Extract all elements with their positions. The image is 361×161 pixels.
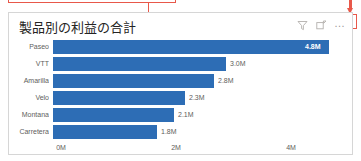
bar-value-label: 2.8M [218, 73, 234, 89]
filter-icon[interactable] [294, 18, 310, 33]
category-label: Carretera [9, 124, 49, 140]
bar[interactable] [53, 74, 214, 88]
bar-row[interactable]: Amarilla2.8M [9, 73, 352, 89]
bar-track: 2.8M [53, 73, 352, 89]
bar-track: 2.3M [53, 90, 352, 106]
bar-row[interactable]: Velo2.3M [9, 90, 352, 106]
bar-value-label: 3.0M [230, 56, 246, 72]
bar-track: 1.8M [53, 124, 352, 140]
category-label: Amarilla [9, 73, 49, 89]
bar[interactable] [53, 57, 226, 71]
x-axis-tick-label: 4M [286, 144, 296, 151]
bar-row[interactable]: Montana2.1M [9, 107, 352, 123]
visual-header: 製品別の利益の合計 … [9, 13, 352, 39]
category-label: VTT [9, 56, 49, 72]
x-axis-tick-label: 2M [171, 144, 181, 151]
bar[interactable] [53, 108, 174, 122]
chart-visual-card: 製品別の利益の合計 … Paseo4.8MVTT3.0MAmarilla2.8M… [8, 12, 353, 155]
bar[interactable] [53, 125, 157, 139]
bar-row[interactable]: Paseo4.8M [9, 39, 352, 55]
visual-header-icons: … [294, 16, 348, 35]
bar-value-label: 2.3M [189, 90, 205, 106]
bar-value-label: 2.1M [178, 107, 194, 123]
bar-row[interactable]: VTT3.0M [9, 56, 352, 72]
bar-value-label: 1.8M [161, 124, 177, 140]
bar[interactable] [53, 91, 185, 105]
category-label: Velo [9, 90, 49, 106]
bar-track: 3.0M [53, 56, 352, 72]
annotation-rectangle [8, 0, 176, 3]
focus-mode-icon[interactable] [313, 18, 329, 33]
bar-rows: Paseo4.8MVTT3.0MAmarilla2.8MVelo2.3MMont… [9, 39, 352, 141]
bar[interactable] [53, 40, 329, 54]
bar-value-label: 4.8M [305, 39, 321, 55]
bar-track: 2.1M [53, 107, 352, 123]
bar-row[interactable]: Carretera1.8M [9, 124, 352, 140]
more-options-icon[interactable]: … [332, 16, 348, 35]
bar-track: 4.8M [53, 39, 352, 55]
category-label: Montana [9, 107, 49, 123]
category-label: Paseo [9, 39, 49, 55]
chart-plot-area: Paseo4.8MVTT3.0MAmarilla2.8MVelo2.3MMont… [9, 39, 352, 154]
x-axis: 0M2M4M [53, 144, 352, 156]
page-title: 製品別の利益の合計 [19, 17, 136, 36]
x-axis-tick-label: 0M [56, 144, 66, 151]
